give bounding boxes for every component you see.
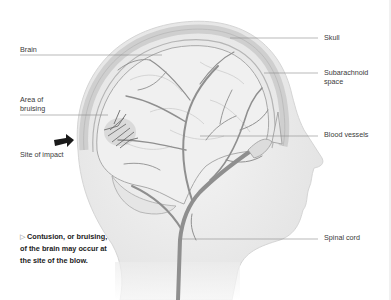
label-subarachnoid-space: Subarachnoid space — [324, 69, 368, 86]
label-brain: Brain — [20, 46, 37, 55]
figure-caption: ▷Contusion, or bruising, of the brain ma… — [20, 231, 110, 268]
diagram-canvas: Brain Area of bruising Site of impact Sk… — [0, 0, 391, 300]
caption-text: Contusion, or bruising, of the brain may… — [20, 232, 107, 265]
label-area-of-bruising: Area of bruising — [20, 96, 45, 113]
label-skull: Skull — [324, 34, 340, 43]
label-blood-vessels: Blood vessels — [324, 131, 368, 140]
label-site-of-impact: Site of impact — [20, 151, 64, 160]
impact-arrow — [54, 134, 74, 147]
label-spinal-cord: Spinal cord — [324, 234, 360, 243]
caption-marker-icon: ▷ — [20, 232, 25, 241]
